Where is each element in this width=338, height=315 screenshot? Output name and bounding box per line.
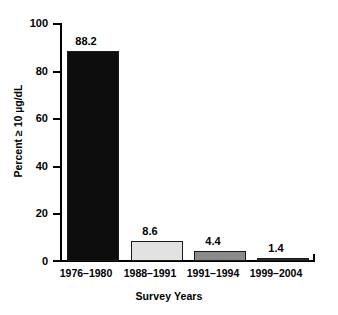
x-axis-category-1976-1980: 1976–1980 [49, 267, 123, 279]
bar-1999-2004 [257, 258, 309, 261]
plot-area [60, 23, 315, 261]
bar-1991-1994 [194, 251, 246, 261]
y-tick-label-20: 20 [8, 208, 48, 219]
bar-value-label-1999-2004: 1.4 [243, 243, 309, 254]
x-axis-category-1999-2004: 1999–2004 [239, 267, 313, 279]
x-axis-title: Survey Years [0, 290, 338, 302]
y-tick-label-100: 100 [8, 18, 48, 29]
y-tick-label-60: 60 [8, 113, 48, 124]
bar-1976-1980 [67, 51, 119, 261]
y-tick-label-0: 0 [8, 256, 48, 267]
bar-1988-1991 [131, 241, 183, 261]
y-tick-label-80: 80 [8, 66, 48, 77]
y-tick-label-40: 40 [8, 161, 48, 172]
bar-chart-figure: Percent ≥ 10 µg/dL 100 80 60 40 20 0 88.… [0, 0, 338, 315]
bar-value-label-1988-1991: 8.6 [117, 226, 183, 237]
bar-value-label-1976-1980: 88.2 [53, 36, 119, 47]
bar-value-label-1991-1994: 4.4 [180, 236, 246, 247]
